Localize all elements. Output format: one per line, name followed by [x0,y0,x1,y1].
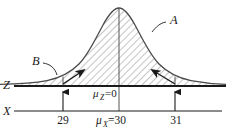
region-label-b: B [32,54,40,68]
svg-text:=0: =0 [105,87,117,99]
x-axis-center-label: μ X =30 [95,114,126,129]
normal-distribution-figure: A B Z X μ Z =0 μ X =30 29 31 [0,0,226,131]
svg-text:=30: =30 [108,114,126,126]
x-tick-label-right: 31 [170,114,182,126]
svg-text:μ: μ [95,114,102,127]
x-axis-label: X [2,104,12,118]
leader-line-b [43,63,57,75]
leader-line-a [152,22,166,32]
z-axis-label: Z [3,78,11,92]
svg-text:μ: μ [92,87,99,99]
shaded-distribution-area [0,8,226,85]
region-label-a: A [169,13,178,27]
z-axis-center-label: μ Z =0 [92,87,117,102]
x-tick-label-left: 29 [57,114,69,126]
